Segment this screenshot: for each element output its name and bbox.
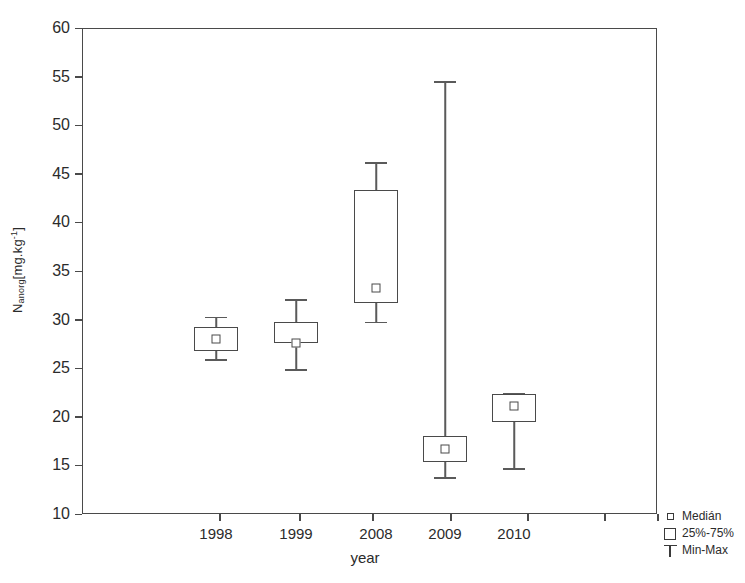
x-axis-tick-label: 2008 — [359, 524, 392, 544]
y-axis-tick-label: 60 — [52, 18, 70, 38]
y-axis-tick-mark — [75, 173, 82, 175]
median-marker — [441, 444, 450, 453]
whisker-cap-max — [434, 81, 456, 83]
whisker-lower — [375, 303, 377, 321]
whisker-cap-min — [205, 359, 227, 361]
y-axis-title-symbol: N — [10, 303, 25, 313]
x-axis-tick-mark — [527, 514, 529, 521]
x-axis-tick-label: 2009 — [428, 524, 461, 544]
x-axis-tick-label: 2010 — [497, 524, 530, 544]
y-axis-tick-mark — [75, 368, 82, 370]
median-marker — [212, 335, 221, 344]
legend-item-label: Min-Max — [682, 542, 728, 559]
whisker-upper — [295, 299, 297, 321]
y-axis-tick-mark — [75, 76, 82, 78]
box-plot-group — [346, 0, 406, 514]
legend-key-whisker-marker — [662, 543, 678, 558]
whisker-upper — [215, 317, 217, 328]
whisker-lower — [513, 422, 515, 469]
whisker-upper — [375, 162, 377, 190]
whisker-lower — [215, 351, 217, 360]
y-axis-tick-mark — [75, 271, 82, 273]
legend-key-median-marker — [662, 509, 678, 524]
whisker-cap-min — [285, 369, 307, 371]
y-axis-tick-label: 30 — [52, 310, 70, 330]
y-axis-tick-mark — [75, 28, 82, 30]
box-plot-chart: 1015202530354045505560 Nanorg[mg.kg-1] 1… — [0, 0, 745, 583]
whisker-cap-max — [205, 317, 227, 319]
legend-item-label: Medián — [682, 508, 721, 525]
whisker-cap-max — [365, 162, 387, 164]
median-marker — [510, 402, 519, 411]
legend-key-box-marker — [662, 526, 678, 541]
x-axis-tick-label: 1998 — [199, 524, 232, 544]
y-axis-tick-label: 20 — [52, 407, 70, 427]
whisker-upper — [444, 81, 446, 436]
y-axis-tick-label: 40 — [52, 212, 70, 232]
y-axis-tick-label: 25 — [52, 358, 70, 378]
y-axis-tick-label: 10 — [52, 504, 70, 524]
whisker-marker-icon — [664, 544, 677, 557]
legend-item-label: 25%-75% — [682, 525, 734, 542]
legend-item: Medián — [662, 508, 734, 525]
whisker-lower — [444, 462, 446, 477]
median-marker — [292, 338, 301, 347]
y-axis-title: Nanorg[mg.kg-1] — [10, 227, 25, 313]
whisker-cap-min — [365, 322, 387, 324]
legend-item: Min-Max — [662, 542, 734, 559]
y-axis-tick-mark — [75, 514, 82, 516]
x-axis-title: year — [0, 549, 745, 566]
y-axis-title-units-open: [mg.kg — [10, 239, 25, 279]
x-axis-tick-mark — [450, 514, 452, 521]
box-plot-group — [266, 0, 326, 514]
x-axis-tick-mark — [372, 514, 374, 521]
y-axis-tick-mark — [75, 465, 82, 467]
box-plot-group — [484, 0, 544, 514]
x-axis-title-text: year — [350, 549, 379, 566]
y-axis-tick-mark — [75, 319, 82, 321]
y-axis-tick-label: 15 — [52, 455, 70, 475]
x-axis-tick-mark — [299, 514, 301, 521]
box-plot-group — [186, 0, 246, 514]
x-axis-tick-mark — [604, 514, 606, 521]
y-axis-tick-label: 55 — [52, 67, 70, 87]
y-axis-title-units-exponent: -1 — [9, 231, 19, 239]
legend: Medián25%-75%Min-Max — [662, 508, 734, 559]
box-plot-group — [415, 0, 475, 514]
whisker-cap-min — [434, 477, 456, 479]
y-axis-tick-mark — [75, 416, 82, 418]
y-axis-tick-label: 45 — [52, 164, 70, 184]
whisker-cap-min — [503, 468, 525, 470]
x-axis-tick-label: 1999 — [279, 524, 312, 544]
x-axis-tick-mark — [219, 514, 221, 521]
y-axis-title-subscript: anorg — [16, 279, 26, 303]
median-marker — [372, 283, 381, 292]
median-marker-icon — [667, 513, 674, 520]
y-axis-tick-label: 35 — [52, 261, 70, 281]
box-marker-icon — [664, 528, 676, 540]
x-axis-tick-mark — [657, 514, 659, 521]
y-axis-tick-mark — [75, 125, 82, 127]
y-axis-tick-mark — [75, 222, 82, 224]
y-axis-tick-label: 50 — [52, 115, 70, 135]
legend-item: 25%-75% — [662, 525, 734, 542]
whisker-cap-max — [285, 299, 307, 301]
